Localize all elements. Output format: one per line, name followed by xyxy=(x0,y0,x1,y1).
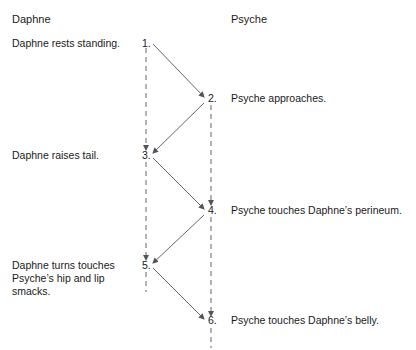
arrow-2-to-3 xyxy=(153,103,204,153)
arrow-3-to-4 xyxy=(153,158,204,209)
arrow-1-to-2 xyxy=(153,44,204,97)
arrow-5-to-6 xyxy=(153,268,204,319)
arrow-4-to-5 xyxy=(153,215,204,263)
sequence-arrows xyxy=(0,0,416,350)
